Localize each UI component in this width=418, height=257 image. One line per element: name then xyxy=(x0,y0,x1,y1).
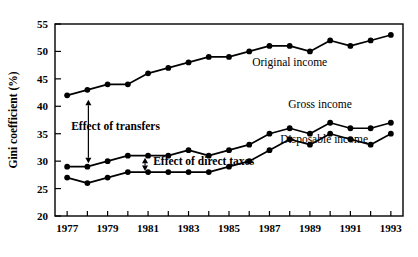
series-1 xyxy=(64,32,394,98)
series-label-2: Gross income xyxy=(288,98,352,110)
data-point xyxy=(165,65,171,71)
data-point xyxy=(84,164,90,170)
data-point xyxy=(84,180,90,186)
y-axis-title-text: Gini coefficient (%) xyxy=(7,71,20,168)
data-point xyxy=(125,153,131,159)
data-point xyxy=(145,169,151,175)
data-point xyxy=(368,125,374,131)
data-point xyxy=(267,131,273,137)
data-point xyxy=(388,32,394,38)
y-tick-label: 20 xyxy=(37,210,49,222)
x-tick-label: 1991 xyxy=(339,222,361,234)
data-point xyxy=(105,81,111,87)
data-point xyxy=(206,169,212,175)
data-point xyxy=(64,92,70,98)
data-point xyxy=(105,158,111,164)
data-point xyxy=(287,43,293,49)
x-tick-label: 1989 xyxy=(299,222,322,234)
x-tick-label: 1979 xyxy=(97,222,120,234)
data-point xyxy=(347,43,353,49)
data-point xyxy=(327,38,333,44)
annotations-group: Effect of transfersEffect of direct taxe… xyxy=(71,100,254,171)
gini-coefficient-line-chart: 2025303540455055 19771979198119831985198… xyxy=(0,0,418,257)
data-point xyxy=(226,54,232,60)
x-tick-label: 1977 xyxy=(56,222,79,234)
data-point xyxy=(307,49,313,55)
annotation-arrowhead-down xyxy=(85,158,91,164)
data-point xyxy=(84,87,90,93)
y-tick-label: 40 xyxy=(37,100,49,112)
data-point xyxy=(206,54,212,60)
data-point xyxy=(64,175,70,181)
data-point xyxy=(246,49,252,55)
x-tick-label: 1983 xyxy=(178,222,201,234)
data-point xyxy=(125,81,131,87)
y-tick-label: 35 xyxy=(37,128,49,140)
x-axis-ticks: 197719791981198319851987198919911993 xyxy=(56,211,402,234)
x-tick-label: 1985 xyxy=(218,222,241,234)
annotation-text: Effect of direct taxes xyxy=(153,155,255,167)
series-label-1: Original income xyxy=(252,56,327,69)
data-point xyxy=(105,175,111,181)
data-point xyxy=(226,147,232,153)
data-point xyxy=(368,38,374,44)
data-point xyxy=(287,125,293,131)
data-point xyxy=(267,147,273,153)
series-line xyxy=(67,35,391,95)
data-point xyxy=(267,43,273,49)
annotation-2: Effect of direct taxes xyxy=(142,155,255,171)
data-point xyxy=(327,120,333,126)
data-point xyxy=(368,142,374,148)
data-point xyxy=(186,169,192,175)
data-point xyxy=(165,169,171,175)
data-point xyxy=(145,153,151,159)
y-tick-label: 50 xyxy=(37,45,49,57)
y-tick-label: 55 xyxy=(37,18,49,30)
x-tick-label: 1987 xyxy=(258,222,281,234)
annotation-arrowhead-up xyxy=(142,158,148,164)
chart-canvas: 2025303540455055 19771979198119831985198… xyxy=(0,0,418,257)
data-point xyxy=(145,70,151,76)
data-point xyxy=(347,125,353,131)
data-point xyxy=(246,142,252,148)
annotation-text: Effect of transfers xyxy=(71,120,160,132)
series-label-3: Disposable income xyxy=(280,133,368,146)
data-point xyxy=(388,131,394,137)
y-tick-label: 30 xyxy=(37,155,49,167)
annotation-arrowhead-up xyxy=(85,100,91,106)
data-point xyxy=(186,147,192,153)
y-tick-label: 25 xyxy=(37,183,49,195)
data-point xyxy=(125,169,131,175)
x-tick-label: 1981 xyxy=(137,222,159,234)
data-point xyxy=(186,60,192,66)
data-point xyxy=(64,164,70,170)
y-tick-label: 45 xyxy=(37,73,49,85)
data-point xyxy=(388,120,394,126)
x-tick-label: 1993 xyxy=(380,222,403,234)
y-axis-title: Gini coefficient (%) xyxy=(7,71,20,168)
y-axis-ticks: 2025303540455055 xyxy=(37,18,61,222)
